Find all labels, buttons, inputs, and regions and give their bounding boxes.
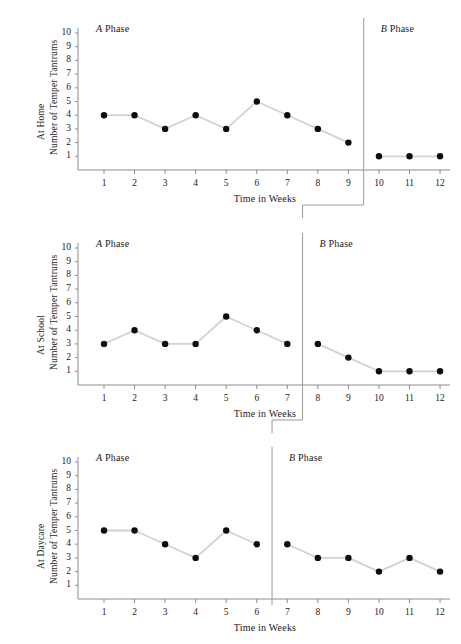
x-tick-label: 6 bbox=[247, 179, 267, 189]
data-point bbox=[223, 313, 229, 319]
x-tick-label: 3 bbox=[155, 179, 175, 189]
x-tick-label: 6 bbox=[247, 394, 267, 404]
data-point bbox=[101, 527, 107, 533]
data-point bbox=[315, 341, 321, 347]
data-point bbox=[192, 112, 198, 118]
phase-b-label: B Phase bbox=[320, 238, 353, 249]
x-tick-label: 9 bbox=[338, 608, 358, 618]
data-point bbox=[101, 341, 107, 347]
x-axis-title: Time in Weeks bbox=[165, 622, 365, 633]
x-tick-label: 1 bbox=[94, 608, 114, 618]
data-point bbox=[131, 527, 137, 533]
data-point bbox=[162, 341, 168, 347]
x-tick-label: 1 bbox=[94, 394, 114, 404]
x-tick-label: 11 bbox=[400, 608, 420, 618]
data-point bbox=[131, 327, 137, 333]
x-tick-label: 4 bbox=[186, 608, 206, 618]
x-tick-label: 9 bbox=[338, 394, 358, 404]
x-tick-label: 5 bbox=[216, 394, 236, 404]
multiple-baseline-figure: 10987654321123456789101112Time in WeeksA… bbox=[0, 0, 461, 644]
phase-a-letter: A bbox=[96, 23, 102, 34]
x-tick-label: 10 bbox=[369, 179, 389, 189]
data-point bbox=[254, 541, 260, 547]
phase-a-label: A Phase bbox=[96, 238, 129, 249]
data-point bbox=[376, 568, 382, 574]
data-point bbox=[131, 112, 137, 118]
x-tick-label: 3 bbox=[155, 394, 175, 404]
x-tick-label: 10 bbox=[369, 394, 389, 404]
data-point bbox=[101, 112, 107, 118]
x-tick-label: 7 bbox=[277, 608, 297, 618]
phase-a-word: Phase bbox=[105, 452, 129, 463]
data-point bbox=[376, 153, 382, 159]
y-tick-label: 10 bbox=[55, 243, 71, 253]
phase-b-word: Phase bbox=[329, 238, 353, 249]
x-tick-label: 8 bbox=[308, 608, 328, 618]
data-point bbox=[162, 126, 168, 132]
series-line-phase-a bbox=[104, 102, 348, 143]
chart-panel-2: 10987654321123456789101112Time in WeeksA… bbox=[0, 215, 461, 430]
y-axis-title-secondary: Number of Temper Tantrums bbox=[49, 255, 59, 370]
x-axis-title: Time in Weeks bbox=[165, 408, 365, 419]
x-tick-label: 12 bbox=[430, 179, 450, 189]
data-point bbox=[284, 541, 290, 547]
x-tick-label: 6 bbox=[247, 608, 267, 618]
data-point bbox=[345, 354, 351, 360]
phase-b-label: B Phase bbox=[289, 452, 322, 463]
phase-a-word: Phase bbox=[105, 23, 129, 34]
phase-b-word: Phase bbox=[390, 23, 414, 34]
x-tick-label: 4 bbox=[186, 179, 206, 189]
y-axis-title-secondary: Number of Temper Tantrums bbox=[49, 40, 59, 155]
y-tick-label: 10 bbox=[55, 28, 71, 38]
x-tick-label: 5 bbox=[216, 608, 236, 618]
x-tick-label: 10 bbox=[369, 608, 389, 618]
data-point bbox=[284, 341, 290, 347]
data-point bbox=[406, 368, 412, 374]
phase-b-letter: B bbox=[381, 23, 387, 34]
data-point bbox=[345, 139, 351, 145]
data-point bbox=[254, 98, 260, 104]
data-point bbox=[315, 555, 321, 561]
y-axis-title-secondary: Number of Temper Tantrums bbox=[49, 469, 59, 584]
phase-a-letter: A bbox=[96, 238, 102, 249]
data-point bbox=[223, 126, 229, 132]
chart-panel-3: 10987654321123456789101112Time in WeeksA… bbox=[0, 429, 461, 644]
data-point bbox=[284, 112, 290, 118]
phase-a-label: A Phase bbox=[96, 23, 129, 34]
phase-b-letter: B bbox=[320, 238, 326, 249]
data-point bbox=[162, 541, 168, 547]
phase-b-word: Phase bbox=[298, 452, 322, 463]
data-point bbox=[254, 327, 260, 333]
x-tick-label: 7 bbox=[277, 179, 297, 189]
data-point bbox=[437, 153, 443, 159]
chart-panel-1: 10987654321123456789101112Time in WeeksA… bbox=[0, 0, 461, 215]
data-point bbox=[437, 368, 443, 374]
x-tick-label: 12 bbox=[430, 608, 450, 618]
phase-b-letter: B bbox=[289, 452, 295, 463]
phase-b-label: B Phase bbox=[381, 23, 414, 34]
x-tick-label: 2 bbox=[125, 179, 145, 189]
data-point bbox=[315, 126, 321, 132]
data-point bbox=[406, 153, 412, 159]
x-tick-label: 1 bbox=[94, 179, 114, 189]
x-tick-label: 11 bbox=[400, 394, 420, 404]
y-axis-title-primary: At Home bbox=[36, 104, 46, 141]
series-line-phase-a bbox=[104, 531, 257, 558]
x-tick-label: 9 bbox=[338, 179, 358, 189]
series-line-phase-b bbox=[287, 544, 440, 571]
phase-a-word: Phase bbox=[105, 238, 129, 249]
y-axis-title-primary: At Daycare bbox=[36, 523, 46, 569]
y-tick-label: 10 bbox=[55, 457, 71, 467]
x-tick-label: 5 bbox=[216, 179, 236, 189]
x-tick-label: 2 bbox=[125, 608, 145, 618]
x-tick-label: 8 bbox=[308, 394, 328, 404]
x-tick-label: 8 bbox=[308, 179, 328, 189]
phase-a-label: A Phase bbox=[96, 452, 129, 463]
x-tick-label: 12 bbox=[430, 394, 450, 404]
x-tick-label: 3 bbox=[155, 608, 175, 618]
x-tick-label: 11 bbox=[400, 179, 420, 189]
x-tick-label: 2 bbox=[125, 394, 145, 404]
x-axis-title: Time in Weeks bbox=[165, 193, 365, 204]
data-point bbox=[376, 368, 382, 374]
x-tick-label: 4 bbox=[186, 394, 206, 404]
